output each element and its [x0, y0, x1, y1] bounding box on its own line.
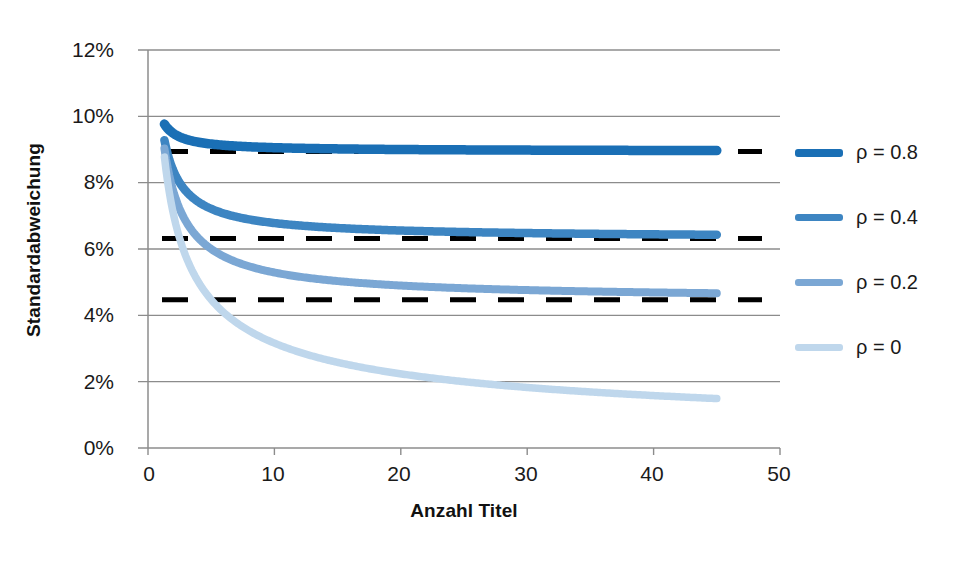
legend-item-rho-08[interactable]: ρ = 0.8: [795, 120, 980, 185]
y-tick-label-0: 0%: [62, 436, 114, 460]
legend-item-rho-0[interactable]: ρ = 0: [795, 315, 980, 380]
y-tick-label-4: 4%: [62, 303, 114, 327]
y-tick-label-10: 10%: [62, 104, 114, 128]
y-axis-title-wrapper: Standardabweichung: [14, 0, 54, 480]
legend-label-rho-02: ρ = 0.2: [856, 271, 918, 294]
y-tick-label-8: 8%: [62, 170, 114, 194]
axis-lines: [148, 50, 780, 455]
legend-item-rho-04[interactable]: ρ = 0.4: [795, 185, 980, 250]
legend-label-rho-0: ρ = 0: [856, 336, 901, 359]
legend-label-rho-08: ρ = 0.8: [856, 141, 918, 164]
legend-label-rho-04: ρ = 0.4: [856, 206, 918, 229]
legend-swatch-rho-02: [795, 279, 843, 286]
chart-container: Standardabweichung 12% 10% 8% 6% 4% 2% 0…: [0, 0, 980, 565]
x-tick-label-30: 30: [511, 462, 541, 486]
legend-swatch-rho-04: [795, 214, 843, 221]
x-tick-label-10: 10: [258, 462, 288, 486]
y-axis-title: Standardabweichung: [23, 143, 45, 337]
legend-swatch-rho-0: [795, 344, 843, 351]
x-tick-label-0: 0: [138, 462, 160, 486]
legend-item-rho-02[interactable]: ρ = 0.2: [795, 250, 980, 315]
x-tick-label-40: 40: [637, 462, 667, 486]
y-tick-label-2: 2%: [62, 370, 114, 394]
reference-lines: [162, 151, 762, 299]
x-axis-title: Anzahl Titel: [410, 500, 517, 521]
legend-swatch-rho-08: [795, 149, 843, 157]
x-axis-title-wrapper: Anzahl Titel: [148, 500, 780, 522]
data-series-group: [164, 124, 716, 398]
x-tick-label-50: 50: [764, 462, 794, 486]
y-tick-label-6: 6%: [62, 237, 114, 261]
x-tick-label-20: 20: [384, 462, 414, 486]
y-tick-label-12: 12%: [62, 38, 114, 62]
gridlines: [138, 50, 780, 448]
legend: ρ = 0.8 ρ = 0.4 ρ = 0.2 ρ = 0: [795, 120, 980, 380]
